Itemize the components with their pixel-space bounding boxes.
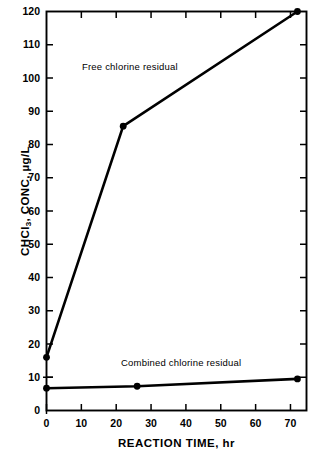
- series-2: [43, 376, 301, 392]
- data-point: [294, 8, 301, 15]
- chart-figure: CHCl3, CONC, µg/L 0102030405060708090100…: [0, 0, 320, 456]
- series-line-2: [47, 379, 298, 388]
- data-point: [43, 385, 50, 392]
- data-point: [294, 376, 301, 383]
- data-point: [120, 123, 127, 130]
- annotation-combined-chlorine-residual: Combined chlorine residual: [121, 357, 241, 368]
- data-point: [43, 354, 50, 361]
- annotation-free-chlorine-residual: Free chlorine residual: [82, 61, 178, 72]
- data-point: [134, 383, 141, 390]
